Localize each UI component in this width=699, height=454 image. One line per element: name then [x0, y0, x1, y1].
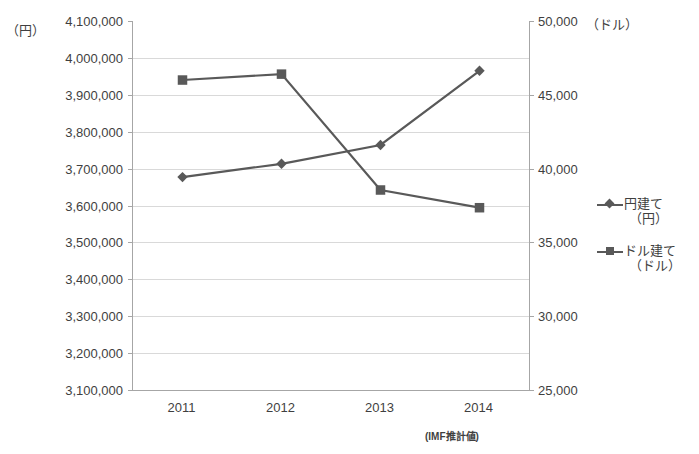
series-line [183, 71, 480, 177]
right-axis-tick-label: 30,000 [538, 310, 578, 323]
tick-mark [529, 316, 534, 317]
left-axis-tick-label: 3,200,000 [65, 347, 123, 360]
category-label: 2011 [168, 400, 196, 415]
series-plot [133, 21, 529, 390]
data-point-square[interactable] [178, 75, 188, 85]
legend-label-yen: 円建て （円） [624, 196, 668, 226]
tick-mark [529, 21, 534, 22]
data-point-diamond[interactable] [177, 172, 187, 182]
data-point-square[interactable] [475, 203, 485, 213]
legend-label-usd: ドル建て （ドル） [624, 243, 681, 273]
left-axis-tick-label: 3,900,000 [65, 88, 123, 101]
category-label: 2013 [365, 400, 394, 415]
left-axis-tick-label: 4,000,000 [65, 51, 123, 64]
category-label: 2012 [266, 400, 295, 415]
diamond-marker-icon [597, 197, 623, 213]
data-point-square[interactable] [376, 185, 386, 195]
left-axis-tick-label: 3,400,000 [65, 273, 123, 286]
legend-item-yen[interactable]: 円建て （円） [597, 196, 697, 226]
square-marker-icon [597, 244, 623, 260]
left-axis-tick-label: 3,800,000 [65, 125, 123, 138]
left-axis-tick-label: 3,100,000 [65, 384, 123, 397]
tick-mark [529, 95, 534, 96]
tick-mark [529, 390, 534, 391]
chart-container: （円） （ドル） 4,100,0004,000,0003,900,0003,80… [0, 0, 699, 454]
series-line [183, 74, 480, 208]
chart-footnote: (IMF推計値) [425, 428, 479, 443]
data-point-square[interactable] [277, 69, 287, 79]
left-axis-tick-label: 3,700,000 [65, 162, 123, 175]
category-label: 2014 [464, 400, 493, 415]
left-axis-tick-label: 4,100,000 [65, 15, 123, 28]
right-axis-unit-caption: （ドル） [586, 14, 638, 33]
chart-legend: 円建て （円） ドル建て （ドル） [597, 196, 697, 290]
legend-item-usd[interactable]: ドル建て （ドル） [597, 243, 697, 273]
left-axis-tick-label: 3,600,000 [65, 199, 123, 212]
right-axis-tick-label: 25,000 [538, 384, 578, 397]
right-axis-tick-label: 35,000 [538, 236, 578, 249]
tick-mark [128, 390, 133, 391]
tick-mark [529, 169, 534, 170]
right-axis-tick-label: 40,000 [538, 162, 578, 175]
left-axis-tick-label: 3,300,000 [65, 310, 123, 323]
left-axis-tick-label: 3,500,000 [65, 236, 123, 249]
plot-area [132, 21, 530, 391]
tick-mark [529, 242, 534, 243]
left-axis-unit-caption: （円） [6, 20, 45, 39]
data-point-diamond[interactable] [276, 159, 286, 169]
right-axis-tick-label: 45,000 [538, 88, 578, 101]
right-axis-tick-label: 50,000 [538, 15, 578, 28]
